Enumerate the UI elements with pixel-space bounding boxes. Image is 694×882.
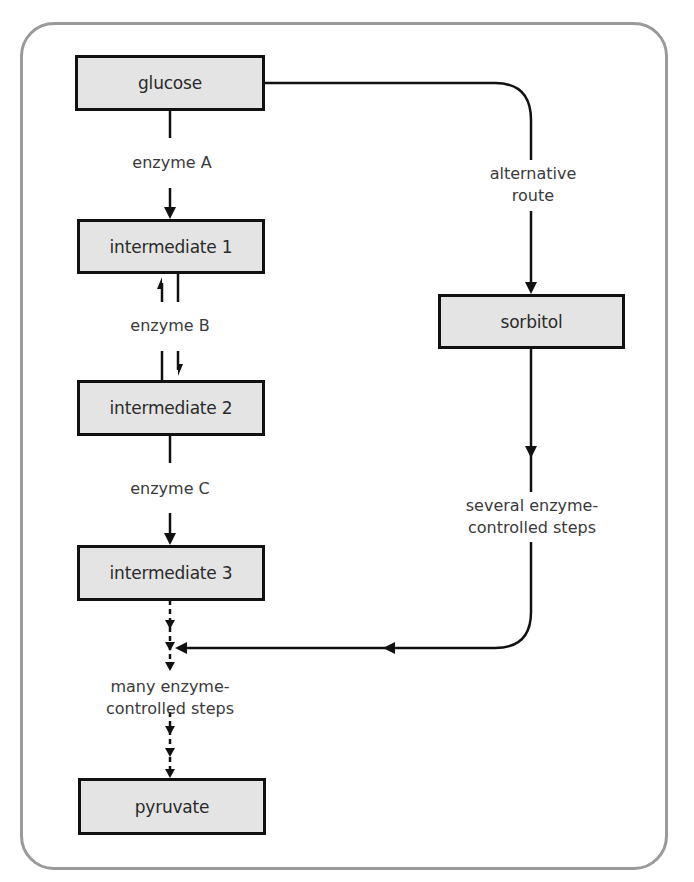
small-arrowhead-icon	[165, 748, 175, 757]
node-intermediate-3: intermediate 3	[77, 545, 265, 601]
small-arrowhead-icon	[165, 726, 175, 735]
node-label: pyruvate	[135, 797, 210, 817]
edge-label-enzyme-a: enzyme A	[132, 152, 211, 174]
small-arrowhead-icon	[165, 642, 175, 651]
label-line: route	[490, 185, 577, 207]
node-label: sorbitol	[501, 312, 563, 332]
edge-label-several-steps: several enzyme- controlled steps	[466, 495, 598, 539]
node-sorbitol: sorbitol	[438, 294, 625, 349]
arrowhead-icon	[164, 533, 176, 545]
arrowhead-icon	[175, 642, 187, 654]
label-line: many enzyme-	[106, 676, 234, 698]
node-glucose: glucose	[75, 55, 265, 111]
small-arrowhead-icon	[165, 620, 175, 629]
arrowhead-icon	[383, 642, 395, 654]
connector-lines	[0, 0, 694, 882]
edge-label-enzyme-c: enzyme C	[130, 478, 210, 500]
node-intermediate-2: intermediate 2	[77, 380, 265, 436]
label-line: controlled steps	[106, 698, 234, 720]
edge-label-enzyme-b: enzyme B	[130, 315, 209, 337]
node-label: intermediate 3	[110, 563, 233, 583]
arrowhead-icon	[525, 446, 537, 458]
arrowhead-icon	[525, 282, 537, 294]
node-pyruvate: pyruvate	[78, 778, 266, 835]
small-arrowhead-icon	[165, 662, 175, 671]
connector-line	[264, 83, 531, 160]
label-line: several enzyme-	[466, 495, 598, 517]
half-arrowhead-icon	[157, 277, 162, 289]
node-label: glucose	[138, 73, 202, 93]
node-label: intermediate 2	[110, 398, 233, 418]
arrowhead-icon	[164, 207, 176, 219]
edge-label-alternative-route: alternative route	[490, 163, 577, 207]
node-label: intermediate 1	[110, 237, 233, 257]
small-arrowhead-icon	[165, 769, 175, 778]
half-arrowhead-icon	[178, 364, 183, 376]
label-line: controlled steps	[466, 517, 598, 539]
node-intermediate-1: intermediate 1	[77, 219, 265, 274]
label-line: alternative	[490, 163, 577, 185]
edge-label-many-steps: many enzyme- controlled steps	[106, 676, 234, 720]
